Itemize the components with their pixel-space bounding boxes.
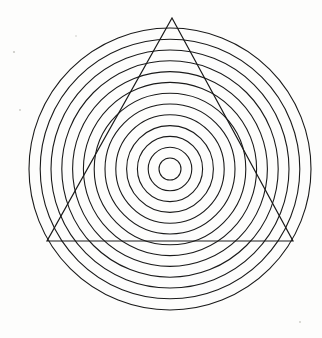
paper-speck-3 (299, 321, 301, 323)
circle-ring-8 (83, 82, 256, 255)
circle-ring-9 (73, 72, 268, 267)
circle-ring-4 (127, 126, 214, 213)
circle-ring-3 (137, 136, 202, 201)
circle-ring-2 (148, 147, 192, 191)
paper-speck-2 (75, 35, 77, 37)
paper-speck-0 (13, 51, 15, 53)
concentric-circles-diagram (0, 0, 322, 338)
concentric-circle-group (29, 28, 311, 310)
paper-speck-1 (19, 109, 21, 111)
figure-canvas (0, 0, 322, 338)
circle-ring-12 (40, 39, 300, 299)
inscribed-triangle (47, 18, 293, 241)
circle-ring-6 (105, 104, 235, 234)
circle-ring-13 (29, 28, 311, 310)
circle-ring-5 (116, 115, 224, 223)
circle-ring-1 (159, 158, 181, 180)
